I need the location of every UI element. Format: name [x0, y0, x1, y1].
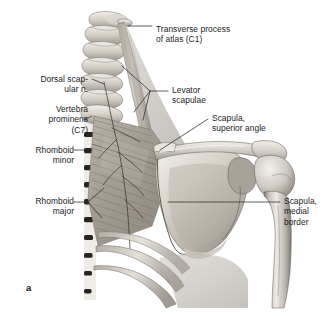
label-rhomboid-major: Rhomboid major	[0, 196, 74, 217]
figure-part-letter: a	[26, 282, 31, 293]
humerus	[254, 155, 294, 308]
label-levator-scapulae: Levator scapulae	[172, 85, 206, 106]
anatomical-figure: Transverse process of atlas (C1) Dorsal …	[0, 0, 332, 318]
label-vertebra-prominens: Vertebra prominens (C7)	[0, 104, 88, 135]
label-scapula-medial-border: Scapula, medial border	[284, 196, 317, 227]
glenoid-region	[228, 158, 256, 194]
label-rhomboid-minor: Rhomboid minor	[0, 145, 74, 166]
label-dorsal-scapular-nerve: Dorsal scap- ular n.	[0, 74, 88, 95]
label-transverse-process-of-atlas: Transverse process of atlas (C1)	[156, 24, 230, 45]
label-scapula-superior-angle: Scapula, superior angle	[212, 113, 266, 134]
